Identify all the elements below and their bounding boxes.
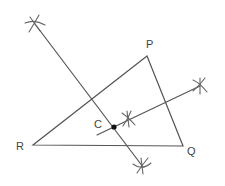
- arc-mark-icon: [122, 111, 135, 127]
- point-c: [111, 124, 116, 129]
- triangle-pqr: [33, 56, 183, 146]
- arc-mark-icon: [133, 158, 151, 174]
- diagram-svg: [0, 0, 225, 186]
- label-q: Q: [187, 146, 196, 157]
- construction-diagram: P Q R C: [0, 0, 225, 186]
- label-p: P: [146, 39, 153, 50]
- arc-mark-icon: [193, 78, 207, 94]
- arc-mark-icon: [25, 15, 45, 32]
- label-r: R: [16, 141, 24, 152]
- label-c: C: [94, 119, 102, 130]
